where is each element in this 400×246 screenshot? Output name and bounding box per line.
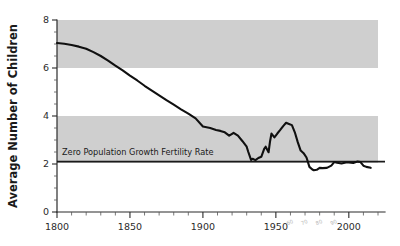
y-tick-marks xyxy=(52,20,57,212)
x-tick-label: 1800 xyxy=(45,221,69,232)
y-axis-title: Average Number of Children xyxy=(6,24,20,208)
upper-shaded-band xyxy=(57,20,378,68)
zero-population-growth-label: Zero Population Growth Fertility Rate xyxy=(62,147,213,157)
x-tick-label: 1900 xyxy=(191,221,215,232)
x-minor-tick-labels: 60708090 xyxy=(286,218,338,226)
y-tick-label: 4 xyxy=(43,110,49,121)
x-minor-tick-label: 70 xyxy=(300,218,308,226)
y-tick-label: 0 xyxy=(43,206,49,217)
x-tick-labels: 18001850190019502000 xyxy=(45,221,361,232)
y-tick-labels: 02468 xyxy=(43,14,49,217)
chart-canvas: 02468 18001850190019502000 60708090 Zero… xyxy=(0,0,400,246)
fertility-rate-chart: 02468 18001850190019502000 60708090 Zero… xyxy=(0,0,400,246)
y-tick-label: 8 xyxy=(43,14,49,25)
x-tick-label: 1950 xyxy=(264,221,288,232)
x-tick-label: 1850 xyxy=(118,221,142,232)
x-tick-marks xyxy=(57,212,378,218)
x-minor-tick-label: 80 xyxy=(315,218,323,226)
y-tick-label: 2 xyxy=(43,158,49,169)
x-minor-tick-label: 60 xyxy=(286,218,294,226)
y-tick-label: 6 xyxy=(43,62,49,73)
shaded-bands xyxy=(57,20,378,163)
x-tick-label: 2000 xyxy=(337,221,361,232)
